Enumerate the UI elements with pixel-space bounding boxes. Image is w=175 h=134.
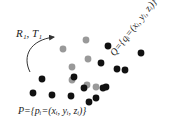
target-point — [93, 95, 100, 102]
source-cloud-label: P={pᵢ=(xᵢ, yᵢ, zᵢ)} — [18, 106, 86, 116]
target-point — [98, 60, 105, 67]
target-point-cloud — [30, 43, 145, 106]
target-point — [114, 66, 121, 73]
target-point — [30, 90, 37, 97]
target-point — [68, 93, 75, 100]
transform-arrow-icon — [27, 37, 54, 72]
target-point — [86, 99, 93, 106]
target-point — [49, 92, 56, 99]
source-point — [69, 64, 76, 71]
source-point — [83, 37, 90, 44]
source-point — [93, 84, 100, 91]
target-point — [138, 50, 145, 57]
registration-diagram: R₁, T₁ P={pᵢ=(xᵢ, yᵢ, zᵢ)} Q={qᵢ=(xᵢ, yᵢ… — [0, 0, 175, 134]
target-point — [100, 85, 107, 92]
target-point — [71, 74, 78, 81]
source-point — [85, 56, 92, 63]
target-point — [39, 76, 46, 83]
target-point — [81, 85, 88, 92]
source-point — [60, 46, 67, 53]
source-point-cloud — [60, 37, 100, 91]
transform-label: R₁, T₁ — [16, 28, 42, 39]
target-point — [122, 67, 129, 74]
